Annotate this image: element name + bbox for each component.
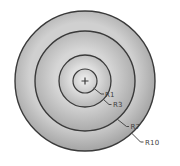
radius-label-r7: R7 bbox=[131, 123, 141, 131]
radius-label-r1: R1 bbox=[105, 91, 115, 99]
leader-r10 bbox=[132, 133, 144, 142]
diagram-svg: R10R7R3R1 bbox=[0, 0, 180, 166]
radius-label-r3: R3 bbox=[113, 101, 123, 109]
diagram: R10R7R3R1 bbox=[0, 0, 180, 166]
radius-label-r10: R10 bbox=[145, 139, 159, 147]
